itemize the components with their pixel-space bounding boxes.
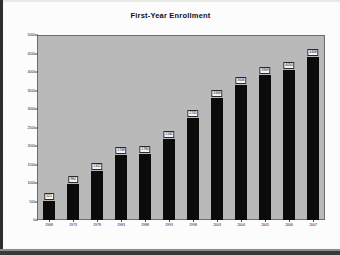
bar-value-label: 3646 (235, 77, 246, 84)
bar-series: 5219841322174817802182274533083646390940… (37, 35, 325, 220)
x-axis-tick-label: 1973 (69, 223, 77, 227)
bar[interactable]: 1780 (139, 154, 150, 220)
bar-slot: 3646 (235, 35, 246, 220)
bar-value-label: 984 (68, 176, 78, 183)
bar-slot: 2182 (163, 35, 174, 220)
bar[interactable]: 521 (43, 201, 54, 220)
bar[interactable]: 1748 (115, 155, 126, 220)
bar-slot: 2745 (187, 35, 198, 220)
bar[interactable]: 1322 (91, 171, 102, 220)
x-axis-tick-label: 1983 (117, 223, 125, 227)
x-axis-tick-mark (73, 220, 74, 222)
x-axis-tick-label: 1998 (189, 223, 197, 227)
x-axis-tick-label: 2004 (237, 223, 245, 227)
x-axis-tick-label: 2005 (261, 223, 269, 227)
x-axis-tick-label: 1978 (93, 223, 101, 227)
y-axis-tick-marks (4, 35, 40, 220)
bar-slot: 4408 (307, 35, 318, 220)
bar-slot: 984 (67, 35, 78, 220)
x-axis-tick-mark (289, 220, 290, 222)
chart-container: First-Year Enrollment 050010001500200025… (4, 2, 337, 248)
scan-edge-left (0, 0, 3, 255)
x-axis-labels: 1968197319781983198819931998200320042005… (37, 223, 325, 235)
bar[interactable]: 2182 (163, 139, 174, 220)
x-axis-tick-mark (241, 220, 242, 222)
bar-slot: 4050 (283, 35, 294, 220)
bar-value-label: 4050 (283, 62, 294, 69)
bar-value-label: 2745 (187, 110, 198, 117)
x-axis-tick-mark (313, 220, 314, 222)
chart-title: First-Year Enrollment (4, 11, 337, 20)
bar-slot: 3308 (211, 35, 222, 220)
bar-slot: 1748 (115, 35, 126, 220)
bar-slot: 3909 (259, 35, 270, 220)
x-axis-tick-mark (49, 220, 50, 222)
x-axis-tick-label: 1988 (141, 223, 149, 227)
x-axis-tick-mark (217, 220, 218, 222)
x-axis-tick-mark (265, 220, 266, 222)
bar-value-label: 4408 (307, 49, 318, 56)
scan-edge-bottom (0, 251, 340, 255)
bar[interactable]: 4408 (307, 57, 318, 220)
bar-value-label: 1322 (91, 163, 102, 170)
bar-slot: 1322 (91, 35, 102, 220)
bar-slot: 521 (43, 35, 54, 220)
bar[interactable]: 3909 (259, 75, 270, 220)
bar[interactable]: 984 (67, 184, 78, 220)
x-axis-tick-mark (145, 220, 146, 222)
x-axis-tick-label: 2003 (213, 223, 221, 227)
x-axis-tick-mark (121, 220, 122, 222)
bar-value-label: 3308 (211, 90, 222, 97)
bar-value-label: 2182 (163, 131, 174, 138)
bar-value-label: 1748 (115, 147, 126, 154)
bar-slot: 1780 (139, 35, 150, 220)
x-axis-tick-label: 1993 (165, 223, 173, 227)
x-axis-tick-label: 1968 (45, 223, 53, 227)
bar-value-label: 1780 (139, 146, 150, 153)
bar[interactable]: 3308 (211, 98, 222, 220)
bar[interactable]: 4050 (283, 70, 294, 220)
x-axis-tick-label: 2006 (285, 223, 293, 227)
bar-value-label: 3909 (259, 67, 270, 74)
x-axis-tick-mark (169, 220, 170, 222)
x-axis-tick-label: 2007 (309, 223, 317, 227)
x-axis-tick-mark (97, 220, 98, 222)
x-axis-tick-mark (193, 220, 194, 222)
bar[interactable]: 2745 (187, 118, 198, 220)
bar[interactable]: 3646 (235, 85, 246, 220)
bar-value-label: 521 (44, 193, 54, 200)
